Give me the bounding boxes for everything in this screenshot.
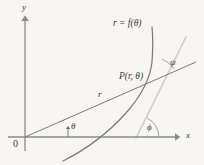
y-axis-label: y — [22, 3, 26, 12]
polar-diagram-figure: y x 0 r = f(θ) P(r, θ) r θ ϕ ψ — [0, 0, 204, 165]
theta-angle-label: θ — [71, 122, 75, 131]
origin-label: 0 — [13, 139, 18, 149]
curve-equation-label: r = f(θ) — [113, 19, 142, 29]
polar-curve — [63, 27, 153, 161]
radial-ray — [25, 62, 196, 137]
diagram-canvas — [0, 0, 204, 165]
point-p-label: P(r, θ) — [119, 72, 143, 82]
radius-label: r — [98, 90, 102, 99]
psi-angle-label: ψ — [170, 58, 176, 67]
phi-angle-label: ϕ — [147, 123, 152, 132]
x-axis-label: x — [186, 131, 190, 140]
